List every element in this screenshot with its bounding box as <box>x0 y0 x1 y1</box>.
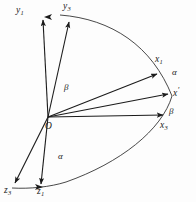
arc-group <box>12 15 172 188</box>
vector-x1 <box>48 74 157 117</box>
angle-label-alpha-lower: α <box>58 152 63 161</box>
right-lower-arc <box>66 96 172 182</box>
angle-label-alpha-upper: α <box>172 68 177 77</box>
diagram-canvas <box>0 0 196 202</box>
axis-label-x-prime: x′ <box>173 89 179 99</box>
vector-y1 <box>43 20 48 117</box>
vector-y3 <box>48 22 69 117</box>
axis-label-y1: y1 <box>16 6 23 16</box>
axis-label-x1: x1 <box>155 55 162 65</box>
axis-label-z3: z3 <box>4 186 11 196</box>
axis-label-y3: y3 <box>63 2 70 12</box>
vector-x-prime <box>48 94 168 117</box>
angle-label-beta-upper: β <box>64 83 68 92</box>
origin-label: O <box>45 122 52 132</box>
arrowhead-upper-arc <box>44 14 52 20</box>
axis-label-z1: z1 <box>37 187 44 197</box>
axis-vectors <box>15 20 168 184</box>
angle-label-beta-lower: β <box>169 107 173 116</box>
vector-axes-diagram: y1 y3 β O x1 α x′ β x3 α z3 z1 <box>0 0 196 202</box>
vector-z3 <box>15 117 48 183</box>
vector-x3 <box>48 115 163 117</box>
axis-label-x3: x3 <box>160 121 167 131</box>
